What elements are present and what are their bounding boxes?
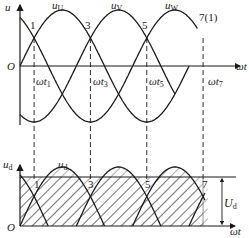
crossing-point-3: 3 bbox=[85, 20, 91, 31]
crossing-point-5: 5 bbox=[142, 20, 148, 31]
upper-x-axis-label: ωt bbox=[236, 61, 247, 72]
average-voltage-label: Ud bbox=[224, 197, 237, 211]
lower-crossing-3: 3 bbox=[88, 179, 94, 190]
waveform-canvas bbox=[0, 0, 249, 238]
crossing-point-7: 7(1) bbox=[199, 12, 217, 23]
lower-x-axis-label: ωt bbox=[230, 226, 241, 237]
lower-crossing-1: 1 bbox=[34, 179, 40, 190]
upper-origin-label: O bbox=[7, 61, 15, 72]
tick-label-wt3: ωt3 bbox=[93, 76, 108, 89]
upper-y-axis-label: u bbox=[5, 2, 11, 13]
tick-label-wt5: ωt5 bbox=[149, 76, 164, 89]
lower-crossing-5: 5 bbox=[145, 179, 151, 190]
curve-label-u-u: uU bbox=[52, 0, 63, 13]
lower-origin-label: O bbox=[7, 222, 15, 233]
rectifier-waveform-diagram: u O ωt uU uV uW 1 3 5 7(1) ωt1 ωt3 ωt5 ω… bbox=[0, 0, 249, 238]
curve-label-u-w: uW bbox=[165, 0, 178, 13]
curve-label-u-v: uV bbox=[111, 0, 122, 13]
ud-curve-label: ud bbox=[58, 159, 68, 172]
tick-label-wt7: ωt7 bbox=[208, 76, 223, 89]
lower-y-axis-label: ud bbox=[3, 159, 13, 172]
tick-label-wt1: ωt1 bbox=[36, 76, 51, 89]
crossing-point-1: 1 bbox=[30, 20, 36, 31]
lower-crossing-7: 7 bbox=[202, 179, 208, 190]
